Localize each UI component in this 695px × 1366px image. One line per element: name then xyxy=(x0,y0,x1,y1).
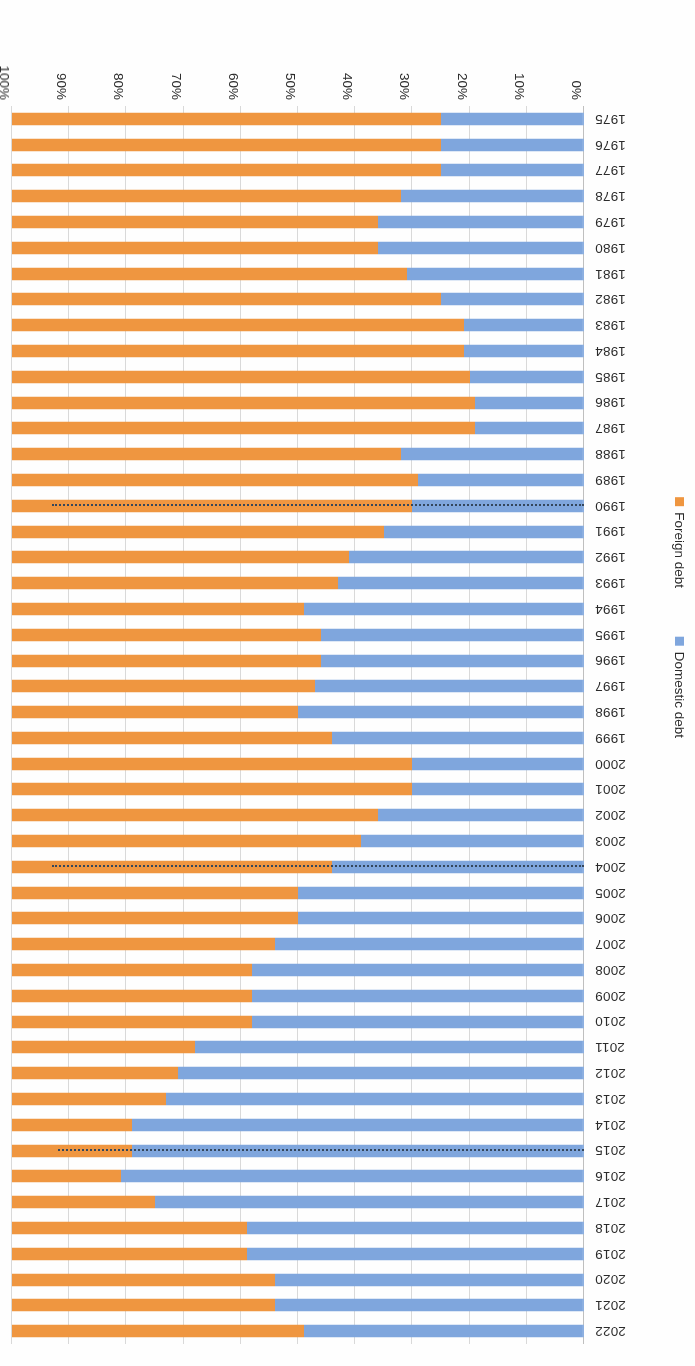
bar-segment-domestic xyxy=(304,1325,584,1338)
stacked-bar-1981 xyxy=(12,267,584,280)
year-label-2016: 2016 xyxy=(595,1163,626,1189)
bar-segment-foreign xyxy=(12,680,315,693)
xtick-40pct: 40% xyxy=(340,73,355,100)
bar-segment-domestic xyxy=(332,731,584,744)
bar-row xyxy=(12,596,584,622)
bar-row xyxy=(12,802,584,828)
bar-row xyxy=(12,570,584,596)
bar-segment-domestic xyxy=(166,1092,584,1105)
year-label-2008: 2008 xyxy=(595,957,626,983)
bar-segment-foreign xyxy=(12,1092,166,1105)
stacked-bar-1992 xyxy=(12,551,584,564)
stacked-bar-1994 xyxy=(12,602,584,615)
bar-row xyxy=(12,261,584,287)
bar-row xyxy=(12,828,584,854)
bar-segment-foreign xyxy=(12,293,441,306)
bar-segment-domestic xyxy=(412,757,584,770)
stacked-bar-2006 xyxy=(12,912,584,925)
bar-segment-domestic xyxy=(384,525,584,538)
year-label-1976: 1976 xyxy=(595,132,626,158)
bar-segment-domestic xyxy=(441,164,584,177)
bar-segment-domestic xyxy=(321,628,584,641)
stacked-bar-1982 xyxy=(12,293,584,306)
bar-segment-domestic xyxy=(275,938,584,951)
year-label-2012: 2012 xyxy=(595,1060,626,1086)
bar-segment-domestic xyxy=(441,112,584,125)
stacked-bar-1988 xyxy=(12,448,584,461)
bar-row xyxy=(12,338,584,364)
bar-segment-foreign xyxy=(12,1247,247,1260)
bar-segment-domestic xyxy=(195,1041,584,1054)
bar-row xyxy=(12,622,584,648)
bar-row xyxy=(12,725,584,751)
bar-row xyxy=(12,312,584,338)
bar-segment-domestic xyxy=(275,1299,584,1312)
year-label-1979: 1979 xyxy=(595,209,626,235)
bar-segment-domestic xyxy=(441,293,584,306)
year-label-2022: 2022 xyxy=(595,1318,626,1344)
stacked-bar-1995 xyxy=(12,628,584,641)
bar-segment-foreign xyxy=(12,396,475,409)
stacked-bar-2007 xyxy=(12,938,584,951)
bar-row xyxy=(12,648,584,674)
stacked-bar-1987 xyxy=(12,422,584,435)
bar-segment-foreign xyxy=(12,938,275,951)
year-label-2021: 2021 xyxy=(595,1292,626,1318)
year-label-2009: 2009 xyxy=(595,983,626,1009)
bar-segment-domestic xyxy=(401,190,584,203)
year-label-2005: 2005 xyxy=(595,880,626,906)
bar-segment-foreign xyxy=(12,706,298,719)
stacked-bar-1996 xyxy=(12,654,584,667)
bar-row xyxy=(12,1189,584,1215)
year-label-2014: 2014 xyxy=(595,1112,626,1138)
stacked-bar-2014 xyxy=(12,1118,584,1131)
stacked-bar-2019 xyxy=(12,1247,584,1260)
stacked-bar-2016 xyxy=(12,1170,584,1183)
xtick-20pct: 20% xyxy=(455,73,470,100)
bar-row xyxy=(12,416,584,442)
bar-row xyxy=(12,1035,584,1061)
bar-row xyxy=(12,1318,584,1344)
bar-row xyxy=(12,957,584,983)
bar-segment-foreign xyxy=(12,551,349,564)
bar-row xyxy=(12,467,584,493)
bar-row xyxy=(12,1112,584,1138)
year-label-2006: 2006 xyxy=(595,906,626,932)
bar-segment-domestic xyxy=(378,241,584,254)
bar-row xyxy=(12,1138,584,1164)
bar-segment-foreign xyxy=(12,473,418,486)
stacked-bar-1993 xyxy=(12,577,584,590)
bar-segment-domestic xyxy=(361,835,584,848)
stacked-bar-2001 xyxy=(12,783,584,796)
bar-row xyxy=(12,673,584,699)
bar-segment-foreign xyxy=(12,345,464,358)
bar-segment-domestic xyxy=(252,964,584,977)
bar-segment-domestic xyxy=(475,422,584,435)
legend-item-domestic-debt: Domestic debt xyxy=(672,637,687,738)
xtick-80pct: 80% xyxy=(111,73,126,100)
bar-segment-foreign xyxy=(12,1325,304,1338)
stacked-bar-1979 xyxy=(12,216,584,229)
bar-segment-domestic xyxy=(407,267,584,280)
year-label-2013: 2013 xyxy=(595,1086,626,1112)
stacked-bar-2013 xyxy=(12,1092,584,1105)
bar-segment-domestic xyxy=(418,473,584,486)
xtick-50pct: 50% xyxy=(283,73,298,100)
bar-row xyxy=(12,1267,584,1293)
bar-segment-domestic xyxy=(332,860,584,873)
bar-row xyxy=(12,854,584,880)
bar-segment-domestic xyxy=(378,216,584,229)
bar-segment-foreign xyxy=(12,319,464,332)
bar-segment-foreign xyxy=(12,577,338,590)
bar-segment-foreign xyxy=(12,989,252,1002)
stacked-bar-1978 xyxy=(12,190,584,203)
bar-row xyxy=(12,158,584,184)
bar-segment-foreign xyxy=(12,422,475,435)
bar-segment-foreign xyxy=(12,628,321,641)
stacked-bar-2002 xyxy=(12,809,584,822)
bar-segment-domestic xyxy=(378,809,584,822)
chart-legend: Domestic debtForeign debt xyxy=(591,398,687,738)
year-label-2018: 2018 xyxy=(595,1215,626,1241)
bar-row xyxy=(12,1292,584,1318)
bar-segment-domestic xyxy=(178,1067,584,1080)
